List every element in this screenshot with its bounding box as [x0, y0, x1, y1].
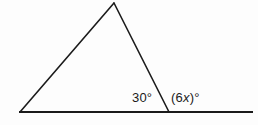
interior-angle-label: 30° — [132, 91, 152, 104]
geometry-figure: 30° (6x)° — [0, 0, 258, 125]
exterior-angle-suffix: )° — [190, 90, 200, 105]
exterior-angle-prefix: (6 — [171, 90, 183, 105]
exterior-angle-variable: x — [183, 90, 190, 105]
triangle-left-side — [20, 3, 114, 112]
triangle-diagram-svg — [0, 0, 258, 125]
exterior-angle-label: (6x)° — [171, 91, 200, 104]
interior-angle-value: 30° — [132, 90, 152, 105]
